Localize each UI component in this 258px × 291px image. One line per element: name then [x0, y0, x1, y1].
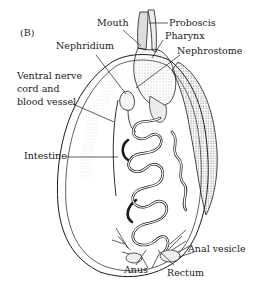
label-rectum: Rectum: [167, 267, 204, 279]
label-mouth: Mouth: [97, 17, 129, 29]
label-anus: Anus: [124, 264, 148, 276]
panel-tag: (B): [20, 27, 34, 39]
label-ventral-nerve-line1: Ventral nerve: [17, 70, 82, 82]
label-nephrostome: Nephrostome: [177, 45, 242, 57]
label-intestine: Intestine: [24, 150, 67, 162]
anatomy-diagram: (B) Mouth Proboscis Pharynx Nephridium N…: [0, 0, 258, 291]
label-ventral-nerve-line3: blood vessel: [17, 96, 76, 108]
label-anal-vesicle: Anal vesicle: [188, 243, 246, 255]
label-nephridium: Nephridium: [56, 40, 114, 52]
label-pharynx: Pharynx: [165, 30, 205, 42]
label-proboscis: Proboscis: [169, 17, 216, 29]
label-ventral-nerve-line2: cord and: [17, 83, 60, 95]
